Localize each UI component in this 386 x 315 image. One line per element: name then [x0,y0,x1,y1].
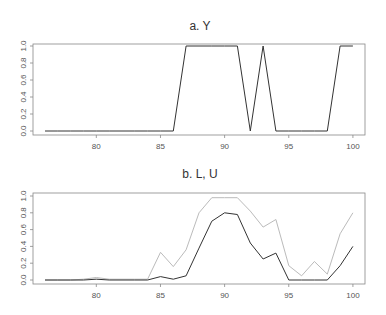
y-tick-label: 1.0 [19,190,28,202]
chart-figure: a. Y 80859095100 0.00.20.40.60.81.0 b. L… [0,0,386,315]
panel-a-plot-box [33,44,365,135]
x-tick-label: 90 [220,291,229,300]
y-tick-label: 0.6 [19,74,28,86]
y-tick-label: 0.6 [19,223,28,235]
x-tick-label: 100 [346,142,360,151]
x-tick-label: 85 [156,291,165,300]
panel-a-y: a. Y 80859095100 0.00.20.40.60.81.0 [19,19,365,151]
x-tick-label: 80 [92,291,101,300]
y-tick-label: 0.0 [19,125,28,137]
panel-b-x-axis: 80859095100 [92,284,360,300]
y-tick-label: 0.0 [19,274,28,286]
panel-b-title: b. L, U [182,167,217,181]
y-tick-label: 0.4 [19,91,28,103]
x-tick-label: 85 [156,142,165,151]
panel-b-plot-box [33,193,365,284]
panel-b-lu: b. L, U 80859095100 0.00.20.40.60.81.0 [19,167,365,300]
panel-a-y-axis: 0.00.20.40.60.81.0 [19,40,33,137]
y-tick-label: 0.8 [19,207,28,219]
y-tick-label: 1.0 [19,40,28,52]
x-tick-label: 80 [92,142,101,151]
x-tick-label: 95 [284,291,293,300]
y-tick-label: 0.2 [19,108,28,120]
panel-a-lines [45,46,353,131]
y-tick-label: 0.4 [19,240,28,252]
y-tick-label: 0.8 [19,57,28,69]
series-line-u [45,198,353,280]
panel-a-title: a. Y [189,19,210,33]
panel-a-x-axis: 80859095100 [92,135,360,151]
panel-b-y-axis: 0.00.20.40.60.81.0 [19,190,33,286]
panel-b-lines [45,198,353,280]
series-line-y [45,46,353,131]
x-tick-label: 90 [220,142,229,151]
x-tick-label: 95 [284,142,293,151]
y-tick-label: 0.2 [19,257,28,269]
x-tick-label: 100 [346,291,360,300]
